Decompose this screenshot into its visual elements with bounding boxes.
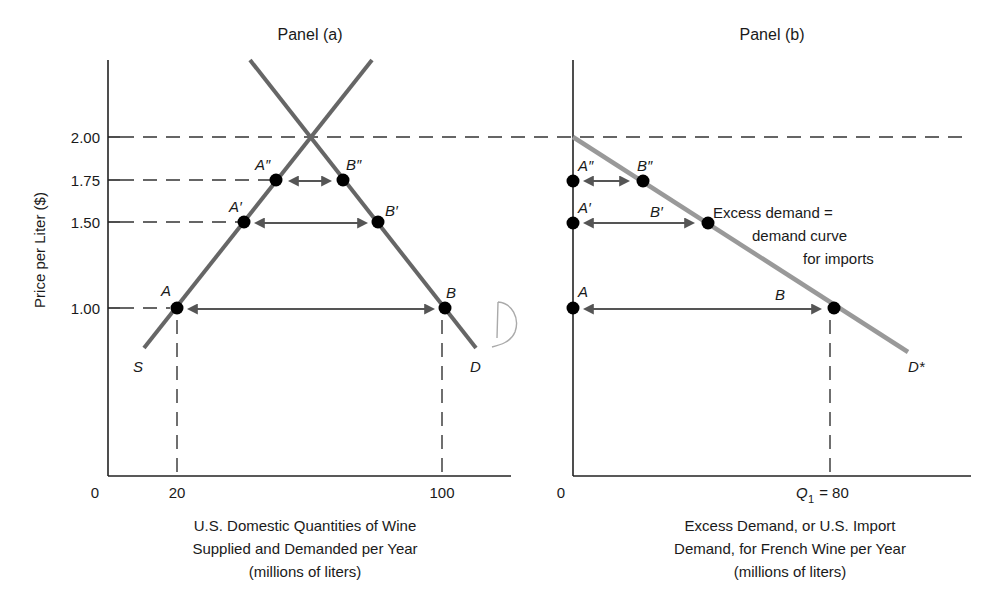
label-D: D bbox=[470, 358, 481, 375]
y-tick-1.50: 1.50 bbox=[71, 214, 100, 231]
panel-b-xlabel-line3: (millions of liters) bbox=[734, 563, 847, 580]
x-tick-20: 20 bbox=[169, 484, 186, 501]
point-B bbox=[439, 302, 452, 315]
label-S: S bbox=[133, 358, 143, 375]
label-b-B-double-prime: B″ bbox=[637, 157, 653, 174]
point-A-prime bbox=[238, 216, 251, 229]
label-B: B bbox=[446, 284, 456, 301]
import-demand-curve bbox=[573, 137, 908, 352]
x-tick-100: 100 bbox=[429, 484, 454, 501]
panel-b-xlabel-line2: Demand, for French Wine per Year bbox=[674, 540, 906, 557]
panel-b: Panel (b) A″ A′ A B″ B′ B D* Excess dema… bbox=[557, 26, 971, 580]
x-tick-0-a: 0 bbox=[91, 484, 99, 501]
annotation-line1: Excess demand = bbox=[713, 204, 833, 221]
y-tick-1.75: 1.75 bbox=[71, 172, 100, 189]
x-tick-q1-value: = 80 bbox=[815, 484, 849, 501]
point-b-A-double-prime bbox=[567, 175, 580, 188]
x-tick-q1-subscript: 1 bbox=[808, 493, 814, 505]
point-B-prime bbox=[372, 216, 385, 229]
point-A-double-prime bbox=[270, 174, 283, 187]
point-B-double-prime bbox=[337, 174, 350, 187]
label-B-prime: B′ bbox=[385, 202, 399, 219]
panel-a-title: Panel (a) bbox=[278, 26, 343, 43]
panel-a-xlabel-line1: U.S. Domestic Quantities of Wine bbox=[194, 517, 417, 534]
label-b-B: B bbox=[775, 286, 785, 303]
point-b-A-prime bbox=[567, 217, 580, 230]
panel-b-xlabel-line1: Excess Demand, or U.S. Import bbox=[685, 517, 897, 534]
label-B-double-prime: B″ bbox=[346, 156, 362, 173]
handwritten-d-mark bbox=[492, 302, 516, 347]
label-D-star: D* bbox=[908, 358, 926, 375]
point-b-A bbox=[567, 302, 580, 315]
panel-a-xlabel-line2: Supplied and Demanded per Year bbox=[192, 540, 417, 557]
label-b-A-double-prime: A″ bbox=[577, 157, 594, 174]
y-tick-2.00: 2.00 bbox=[71, 129, 100, 146]
point-b-B-double-prime bbox=[637, 175, 650, 188]
label-A: A bbox=[160, 282, 171, 299]
annotation-line3: for imports bbox=[803, 250, 874, 267]
label-A-double-prime: A″ bbox=[254, 156, 271, 173]
panel-b-title: Panel (b) bbox=[740, 26, 805, 43]
y-axis-label: Price per Liter ($) bbox=[31, 192, 48, 308]
annotation-line2: demand curve bbox=[752, 227, 847, 244]
panel-a-xlabel-line3: (millions of liters) bbox=[249, 563, 362, 580]
label-b-A: A bbox=[577, 283, 588, 300]
label-b-B-prime: B′ bbox=[650, 203, 664, 220]
y-tick-1.00: 1.00 bbox=[71, 300, 100, 317]
chart-canvas: Panel (a) Price per Liter ($) 2.00 1.75 … bbox=[0, 0, 1005, 614]
label-b-A-prime: A′ bbox=[577, 199, 592, 216]
point-A bbox=[171, 302, 184, 315]
x-tick-0-b: 0 bbox=[557, 484, 565, 501]
point-b-B bbox=[828, 302, 841, 315]
x-tick-q1: Q bbox=[796, 484, 808, 501]
label-A-prime: A′ bbox=[228, 198, 243, 215]
